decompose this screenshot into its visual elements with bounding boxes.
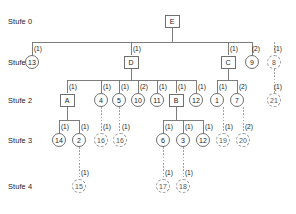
edge-label-to-A: (1) [69, 83, 77, 90]
node-5[interactable]: 5 [112, 93, 126, 107]
node-2[interactable]: 2 [72, 133, 86, 147]
edge-label-to-9: (2) [252, 45, 260, 52]
node-14[interactable]: 14 [52, 133, 66, 147]
tree-edges [0, 0, 296, 214]
edge-label-to-3: (1) [185, 123, 193, 130]
edge-label-to-7: (2) [239, 83, 247, 90]
edge-label-to-12: (1) [198, 83, 206, 90]
edge-label-to-12-b: (1) [205, 123, 213, 130]
node-20[interactable]: 20 [236, 133, 250, 147]
node-11[interactable]: 11 [150, 93, 164, 107]
node-12-b[interactable]: 12 [196, 133, 210, 147]
edge-label-to-10: (2) [140, 83, 148, 90]
tree-diagram-canvas: Stufe 0 Stufe 1 Stufe 2 Stufe 3 Stufe 4 … [0, 0, 296, 214]
edge-label-to-C: (1) [230, 45, 238, 52]
edge-label-to-16-b: (1) [122, 123, 130, 130]
edge-label-to-19: (1) [225, 123, 233, 130]
level-label-stufe-4: Stufe 4 [8, 182, 32, 191]
node-16-a[interactable]: 16 [94, 133, 108, 147]
node-19[interactable]: 19 [216, 133, 230, 147]
node-12[interactable]: 12 [189, 93, 203, 107]
edge-label-to-6: (1) [165, 123, 173, 130]
edge-label-to-18: (1) [185, 169, 193, 176]
edge-label-to-B: (1) [178, 83, 186, 90]
node-E[interactable]: E [165, 15, 180, 28]
node-4[interactable]: 4 [94, 93, 108, 107]
node-10[interactable]: 10 [131, 93, 145, 107]
level-label-stufe-3: Stufe 3 [8, 136, 32, 145]
node-C[interactable]: C [221, 56, 236, 69]
node-A[interactable]: A [60, 94, 75, 107]
node-B[interactable]: B [169, 94, 184, 107]
edge-label-to-8: (1) [274, 45, 282, 52]
edge-label-to-16-a: (1) [103, 123, 111, 130]
node-1[interactable]: 1 [210, 93, 224, 107]
node-9[interactable]: 9 [245, 55, 259, 69]
node-18[interactable]: 18 [176, 179, 190, 193]
level-label-stufe-0: Stufe 0 [8, 17, 32, 26]
node-8[interactable]: 8 [267, 55, 281, 69]
edge-label-to-17: (1) [165, 169, 173, 176]
node-17[interactable]: 17 [156, 179, 170, 193]
edge-label-to-4: (1) [103, 83, 111, 90]
edge-label-to-13: (1) [34, 45, 42, 52]
edge-label-to-20: (2) [245, 123, 253, 130]
node-15[interactable]: 15 [72, 179, 86, 193]
edge-label-to-5: (1) [121, 83, 129, 90]
level-label-stufe-2: Stufe 2 [8, 96, 32, 105]
edge-label-to-1: (1) [219, 83, 227, 90]
edge-label-to-21: (1) [274, 83, 282, 90]
node-7[interactable]: 7 [230, 93, 244, 107]
edge-label-to-15: (1) [81, 169, 89, 176]
node-6[interactable]: 6 [156, 133, 170, 147]
edge-label-to-11: (1) [159, 83, 167, 90]
node-16-b[interactable]: 16 [113, 133, 127, 147]
node-13[interactable]: 13 [25, 55, 39, 69]
node-21[interactable]: 21 [267, 93, 281, 107]
edge-label-to-D: (1) [133, 45, 141, 52]
node-D[interactable]: D [124, 56, 139, 69]
edge-label-to-2: (1) [81, 123, 89, 130]
node-3[interactable]: 3 [176, 133, 190, 147]
edge-label-to-14: (1) [61, 123, 69, 130]
